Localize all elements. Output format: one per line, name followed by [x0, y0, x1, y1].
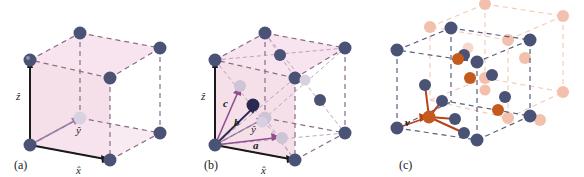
atom [154, 42, 167, 55]
atom-faded [502, 34, 514, 46]
atom-hidden [74, 112, 87, 125]
x-hat-label: x̂ [260, 164, 266, 176]
panel-label-b: (b) [204, 158, 218, 173]
y-hat-label: ŷ [250, 123, 256, 135]
atom-corner [471, 56, 484, 69]
atom-corner [339, 42, 352, 55]
atom-corner [445, 22, 458, 35]
atom-corner [391, 44, 404, 57]
atom-basis-origin [423, 111, 436, 124]
atom-faded [557, 10, 569, 22]
atom-origin [24, 139, 37, 152]
panel-label-c: (c) [399, 158, 412, 173]
atom [74, 27, 87, 40]
atom-faded [519, 52, 531, 64]
atom [104, 154, 117, 167]
atom-face [257, 117, 268, 128]
atom-basis [464, 72, 476, 84]
atoms [391, 22, 537, 147]
atom-corner [524, 34, 537, 47]
vector-c-label: c [223, 97, 228, 109]
atom-corner [391, 122, 404, 135]
atom-face [276, 132, 288, 144]
panel-a-simple-cubic: ẑ ŷ x̂ (a) [0, 0, 195, 177]
atom-corner [524, 110, 537, 123]
vector-v-label: v [405, 116, 410, 128]
panel-label-a: (a) [14, 158, 27, 173]
atom-face [234, 80, 246, 92]
atom [24, 54, 37, 67]
tetrahedral-bonds [425, 85, 464, 133]
atom-basis [452, 53, 464, 65]
atom-basis [492, 104, 504, 116]
y-hat-label: ŷ [75, 124, 81, 136]
panel-c-diamond-structure: v (c) [385, 0, 584, 177]
crystal-structure-figure: ẑ ŷ x̂ (a) [0, 0, 584, 177]
atom-corner [339, 127, 352, 140]
atom-faded [479, 0, 491, 10]
atom [154, 127, 167, 140]
atom-face-b [247, 99, 260, 112]
atom-face [486, 69, 498, 81]
atom-corner [259, 27, 272, 40]
atom-face [300, 75, 311, 86]
vector-a-label: a [253, 139, 259, 151]
atom-face [499, 91, 511, 103]
atom-face [314, 94, 326, 106]
x-hat-label: x̂ [75, 164, 81, 176]
atom-bonded [419, 79, 431, 91]
atom-faded [557, 86, 569, 98]
atom-corner [289, 154, 302, 167]
z-hat-label: ẑ [200, 90, 206, 102]
atom-faded [480, 85, 491, 96]
atom-bonded [436, 95, 448, 107]
faded-cell-edges [430, 4, 563, 118]
z-hat-label: ẑ [15, 90, 21, 102]
atom-corner [289, 72, 302, 85]
panel-b-fcc: ẑ ŷ x̂ a b c (b) [190, 0, 390, 177]
atom-face [274, 49, 286, 61]
atom [104, 72, 117, 85]
atom-highlight [26, 56, 30, 60]
atom-faded [424, 21, 436, 33]
panel-a-diagram: ẑ ŷ x̂ [0, 0, 195, 177]
atom-bonded [458, 127, 470, 139]
atom-corner [209, 54, 222, 67]
atom-corner [471, 134, 484, 147]
atom-bonded [449, 113, 461, 125]
atom-origin [209, 139, 222, 152]
panel-c-diagram: v [385, 0, 584, 177]
vector-b-label: b [234, 116, 240, 128]
panel-b-diagram: ẑ ŷ x̂ a b c [190, 0, 390, 177]
atom-faded [502, 112, 514, 124]
